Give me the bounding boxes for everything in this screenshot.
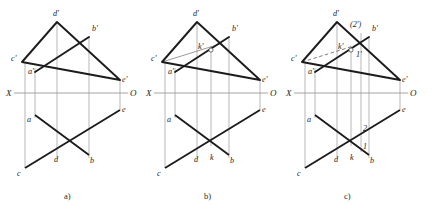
label-c-b-prime: b': [372, 24, 378, 33]
label-b-k-prime: k': [198, 42, 204, 51]
label-axis-o: O: [270, 88, 277, 98]
figure-root: X O d' b' c' a' e' e a d b c a): [0, 0, 432, 212]
panel-a: X O d' b' c' a' e' e a d b c a): [5, 9, 137, 201]
panel-a-line-ab-frontal: [35, 37, 89, 72]
triangle-horiz-ab-lower: [175, 115, 229, 155]
label-c-k-prime: k': [338, 42, 344, 51]
label-b-d-prime: d': [193, 9, 199, 18]
caption-panel-a: a): [64, 191, 71, 201]
label-b-a: a: [167, 115, 171, 124]
label-a-e: e: [122, 105, 126, 114]
panel-b-projectors: [165, 22, 260, 168]
label-b-c-prime: c': [151, 54, 157, 63]
label-c-d-prime: d': [333, 9, 339, 18]
label-c-e: e: [402, 105, 406, 114]
label-b-b-prime: b': [232, 24, 238, 33]
panel-b: X O d' b' k' c' a' e' e a d k b c b): [145, 9, 277, 201]
label-a-c: c: [17, 169, 21, 178]
label-axis-x: X: [5, 88, 12, 98]
label-b-d: d: [194, 155, 199, 164]
label-c-d: d: [334, 155, 339, 164]
label-c-one: 1: [363, 142, 367, 151]
label-b-e-prime: e': [262, 75, 268, 84]
panel-a-lower-triangle: [25, 110, 120, 168]
label-c-two-prime: (2'): [350, 20, 362, 29]
label-c-one-prime: 1': [356, 50, 362, 59]
point-marker-k-prime: [349, 48, 353, 52]
label-a-d-prime: d': [53, 9, 59, 18]
label-c-two: 2: [363, 124, 367, 133]
label-b-e: e: [262, 105, 266, 114]
label-axis-o: O: [410, 88, 417, 98]
label-axis-x: X: [285, 88, 292, 98]
caption-panel-c: c): [344, 191, 351, 201]
label-a-c-prime: c': [11, 54, 17, 63]
point-marker-k-prime: [209, 48, 213, 52]
label-c-b: b: [370, 156, 374, 165]
label-a-a: a: [27, 115, 31, 124]
label-axis-x: X: [145, 88, 152, 98]
label-b-c: c: [157, 169, 161, 178]
label-c-k: k: [350, 153, 354, 162]
caption-panel-b: b): [204, 191, 211, 201]
panel-a-projectors: [25, 22, 120, 168]
label-b-a-prime: a': [168, 67, 174, 76]
label-c-a-prime: a': [308, 67, 314, 76]
label-a-a-prime: a': [28, 67, 34, 76]
label-c-c: c: [297, 169, 301, 178]
label-axis-o: O: [130, 88, 137, 98]
label-b-k: k: [210, 153, 214, 162]
label-c-c-prime: c': [291, 54, 297, 63]
label-a-b: b: [90, 156, 94, 165]
panel-c-projectors: [305, 22, 400, 168]
label-b-b: b: [230, 156, 234, 165]
label-c-a: a: [307, 115, 311, 124]
label-a-e-prime: e': [122, 75, 128, 84]
panel-c: X O d' (2') b' k' 1' c' a' e' e a 2 1 k …: [285, 9, 417, 201]
triangle-horiz-ab-lower: [35, 115, 89, 155]
projection-figure-svg: X O d' b' c' a' e' e a d b c a): [0, 0, 432, 212]
label-a-b-prime: b': [92, 24, 98, 33]
label-c-e-prime: e': [402, 75, 408, 84]
label-a-d: d: [54, 155, 59, 164]
